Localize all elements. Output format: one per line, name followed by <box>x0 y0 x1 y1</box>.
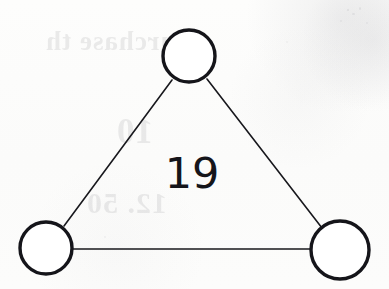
bottom-right-node <box>311 221 369 279</box>
bottom-left-node <box>20 222 72 274</box>
top-node <box>163 30 215 82</box>
triangle-diagram <box>0 0 389 289</box>
triangle-diagram-svg <box>0 0 389 289</box>
scanned-page: Purchase th 10 12. 50 19 <box>0 0 389 289</box>
center-number-label: 19 <box>152 152 232 195</box>
